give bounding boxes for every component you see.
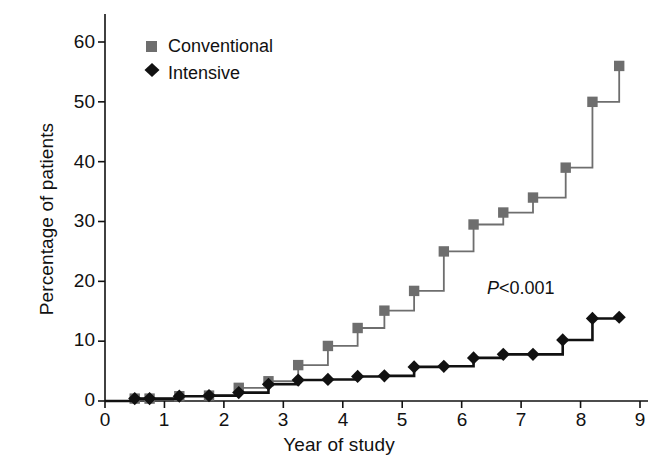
x-tick-label-4: 4 (328, 409, 358, 431)
p-value-rest: <0.001 (499, 278, 555, 298)
x-tick-label-2: 2 (209, 409, 239, 431)
marker-conventional (528, 192, 538, 202)
x-tick-label-0: 0 (90, 409, 120, 431)
marker-intensive (321, 373, 334, 386)
marker-intensive (437, 360, 450, 373)
legend-label-intensive: Intensive (168, 63, 240, 84)
x-tick-label-7: 7 (506, 409, 536, 431)
x-tick-label-6: 6 (447, 409, 477, 431)
marker-intensive (408, 360, 421, 373)
legend-marker-diamond-icon (145, 63, 160, 77)
marker-conventional (409, 286, 419, 296)
marker-conventional (614, 61, 624, 71)
marker-conventional (439, 246, 449, 256)
marker-conventional (323, 341, 333, 351)
y-tick-label-60: 60 (55, 31, 95, 53)
marker-intensive (467, 351, 480, 364)
y-tick-label-0: 0 (55, 389, 95, 411)
marker-intensive (378, 369, 391, 382)
x-tick-label-8: 8 (566, 409, 596, 431)
marker-intensive (613, 311, 626, 324)
y-tick-label-40: 40 (55, 151, 95, 173)
chart-figure: Percentage of patients Year of study 60 … (0, 0, 658, 464)
marker-intensive (556, 333, 569, 346)
y-tick-label-20: 20 (55, 270, 95, 292)
y-tick-label-10: 10 (55, 329, 95, 351)
x-tick-label-3: 3 (268, 409, 298, 431)
marker-intensive (351, 370, 364, 383)
y-tick-label-50: 50 (55, 91, 95, 113)
marker-conventional (379, 305, 389, 315)
marker-conventional (587, 97, 597, 107)
y-tick-label-30: 30 (55, 210, 95, 232)
marker-conventional (293, 360, 303, 370)
marker-conventional (560, 162, 570, 172)
x-tick-label-1: 1 (149, 409, 179, 431)
x-axis-title: Year of study (259, 434, 419, 456)
x-tick-label-9: 9 (625, 409, 655, 431)
p-value-symbol: P (487, 278, 499, 298)
marker-intensive (526, 348, 539, 361)
marker-intensive (586, 312, 599, 325)
x-tick-label-5: 5 (387, 409, 417, 431)
legend-marker-square-icon (146, 41, 157, 52)
chart-plot-area (0, 0, 658, 464)
marker-conventional (352, 323, 362, 333)
series-line-conventional (105, 66, 619, 401)
p-value-annotation: P<0.001 (487, 278, 555, 299)
marker-conventional (468, 219, 478, 229)
marker-conventional (498, 207, 508, 217)
legend-label-conventional: Conventional (168, 36, 273, 57)
